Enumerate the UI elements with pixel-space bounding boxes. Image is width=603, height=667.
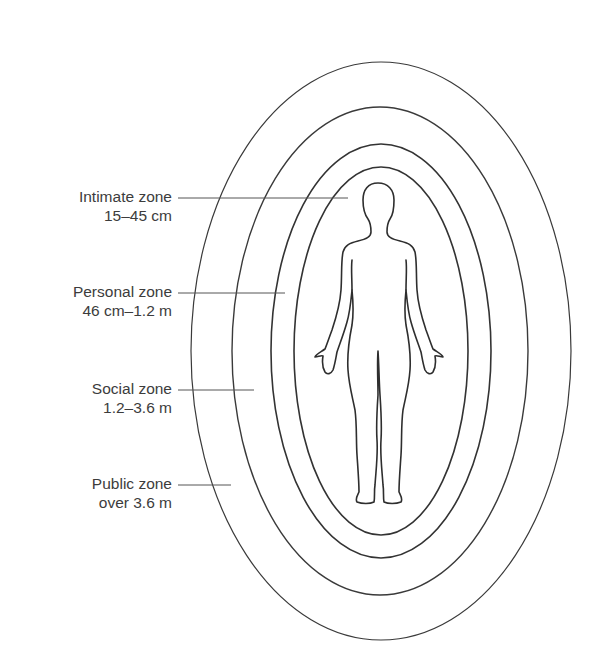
social-zone-range: 1.2–3.6 m <box>92 398 172 417</box>
personal-zone-label: Personal zone 46 cm–1.2 m <box>73 282 172 320</box>
personal-zone-ellipse <box>271 144 491 558</box>
social-zone-label: Social zone 1.2–3.6 m <box>92 379 172 417</box>
intimate-zone-range: 15–45 cm <box>79 206 172 225</box>
public-zone-label: Public zone over 3.6 m <box>92 474 172 512</box>
intimate-zone-name: Intimate zone <box>79 187 172 206</box>
public-zone-name: Public zone <box>92 474 172 493</box>
social-zone-name: Social zone <box>92 379 172 398</box>
public-zone-ellipse <box>191 62 571 640</box>
intimate-zone-ellipse <box>294 167 468 535</box>
proxemics-diagram <box>0 0 603 667</box>
public-zone-range: over 3.6 m <box>92 493 172 512</box>
social-zone-ellipse <box>232 107 528 595</box>
intimate-zone-label: Intimate zone 15–45 cm <box>79 187 172 225</box>
personal-zone-name: Personal zone <box>73 282 172 301</box>
human-figure-icon <box>315 183 443 504</box>
personal-zone-range: 46 cm–1.2 m <box>73 301 172 320</box>
